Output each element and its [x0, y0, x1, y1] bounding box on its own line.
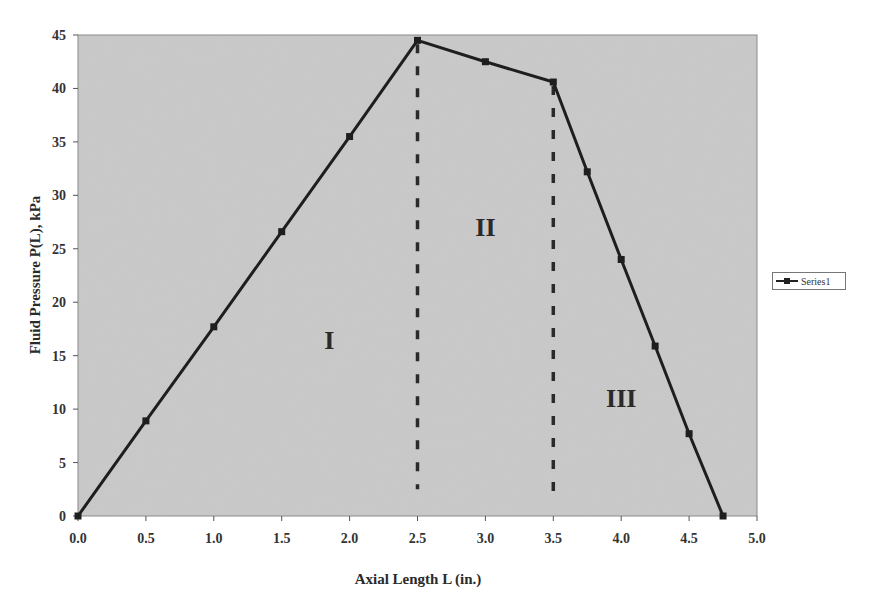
data-point-marker — [550, 79, 557, 86]
y-axis-title: Fluid Pressure P(L), kPa — [27, 195, 44, 354]
y-tick-label: 15 — [52, 349, 66, 364]
x-tick-label: 4.0 — [612, 531, 630, 546]
data-point-marker — [210, 323, 217, 330]
region-label-iii: III — [606, 384, 636, 413]
y-tick-label: 10 — [52, 402, 66, 417]
y-tick-label: 30 — [52, 188, 66, 203]
region-label-ii: II — [475, 213, 495, 242]
data-point-marker — [482, 58, 489, 65]
y-tick-label: 25 — [52, 242, 66, 257]
data-point-marker — [278, 228, 285, 235]
x-tick-label: 3.0 — [477, 531, 495, 546]
x-axis-title: Axial Length L (in.) — [355, 571, 482, 588]
x-tick-label: 3.5 — [545, 531, 563, 546]
data-point-marker — [584, 168, 591, 175]
x-tick-label: 4.5 — [680, 531, 698, 546]
data-point-marker — [414, 37, 421, 44]
region-label-i: I — [324, 326, 334, 355]
x-tick-label: 2.5 — [409, 531, 427, 546]
y-tick-label: 45 — [52, 28, 66, 43]
y-tick-label: 5 — [59, 456, 66, 471]
x-tick-label: 1.5 — [273, 531, 291, 546]
y-tick-label: 40 — [52, 81, 66, 96]
data-point-marker — [75, 513, 82, 520]
data-point-marker — [618, 256, 625, 263]
data-point-marker — [686, 430, 693, 437]
y-tick-label: 0 — [59, 509, 66, 524]
x-tick-label: 0.5 — [137, 531, 155, 546]
x-tick-label: 2.0 — [341, 531, 359, 546]
data-point-marker — [652, 343, 659, 350]
chart: 0.00.51.01.52.02.53.03.54.04.55.00510152… — [0, 0, 877, 614]
legend-series-label: Series1 — [801, 276, 830, 287]
data-point-marker — [720, 513, 727, 520]
data-point-marker — [142, 417, 149, 424]
data-point-marker — [346, 133, 353, 140]
x-tick-label: 1.0 — [205, 531, 223, 546]
x-tick-label: 5.0 — [748, 531, 766, 546]
y-tick-label: 35 — [52, 135, 66, 150]
legend: Series1 — [772, 272, 846, 290]
y-tick-label: 20 — [52, 295, 66, 310]
x-tick-label: 0.0 — [69, 531, 87, 546]
legend-line-marker-icon — [776, 277, 798, 285]
